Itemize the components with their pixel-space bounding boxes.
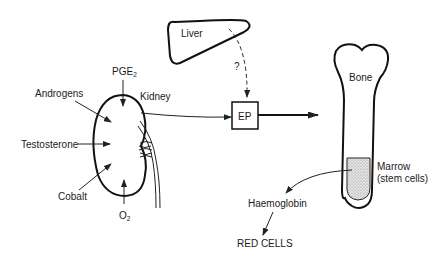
kidney-input-testosterone: Testosterone (21, 139, 110, 150)
kidney-label: Kidney (140, 91, 171, 102)
haemoglobin-label: Haemoglobin (248, 198, 307, 209)
cobalt-label: Cobalt (58, 191, 87, 202)
kidney-input-androgens: Androgens (35, 88, 111, 122)
marrow-region (347, 158, 370, 200)
ep-box: EP (232, 102, 258, 129)
erythropoiesis-diagram: Liver ? Kidney PGE2 Androgens Testostero… (0, 0, 441, 263)
marrow-labels: Marrow (stem cells) (377, 161, 428, 184)
androgens-label: Androgens (35, 88, 83, 99)
haemoglobin-to-red-cells-edge (263, 212, 273, 235)
stem-cells-label: (stem cells) (377, 173, 428, 184)
kidney: Kidney (93, 91, 170, 208)
marrow-label: Marrow (377, 161, 411, 172)
bone-label: Bone (349, 72, 373, 83)
pge2-label: PGE2 (112, 66, 137, 78)
liver-to-ep-edge: ? (229, 29, 247, 97)
uncertain-label: ? (234, 61, 240, 72)
kidney-input-pge2: PGE2 (112, 66, 137, 106)
kidney-to-ep-edge (141, 113, 231, 117)
kidney-input-o2: O2 (119, 180, 131, 222)
o2-label: O2 (119, 210, 131, 222)
red-cells-label: RED CELLS (237, 238, 293, 249)
liver: Liver (168, 20, 250, 64)
testosterone-label: Testosterone (21, 139, 79, 150)
liver-label: Liver (181, 28, 203, 39)
ep-label: EP (238, 111, 252, 122)
